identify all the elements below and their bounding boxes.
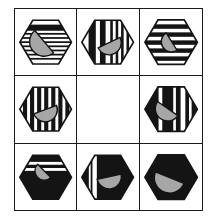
hexagon-moon-icon — [15, 144, 76, 210]
hexagon-moon-icon — [140, 9, 202, 75]
matrix-cell-r2c3 — [140, 76, 202, 143]
hexagon-moon-icon — [15, 9, 76, 75]
matrix-cell-r1c2 — [77, 9, 139, 76]
matrix-cell-r2c1 — [15, 76, 77, 143]
matrix-cell-r3c3 — [140, 144, 202, 210]
matrix-cell-r1c3 — [140, 9, 202, 76]
hexagon-moon-icon — [140, 76, 202, 142]
hexagon-moon-icon — [140, 144, 202, 210]
matrix-cell-r1c1 — [15, 9, 77, 76]
matrix-cell-r3c1 — [15, 144, 77, 210]
matrix-cell-r3c2 — [77, 144, 139, 210]
answer-blank-cell-r2c2 — [77, 76, 139, 143]
matrix-grid — [14, 8, 203, 211]
hexagon-moon-icon — [77, 144, 138, 210]
hexagon-moon-icon — [15, 76, 76, 142]
hexagon-moon-icon — [77, 9, 138, 75]
